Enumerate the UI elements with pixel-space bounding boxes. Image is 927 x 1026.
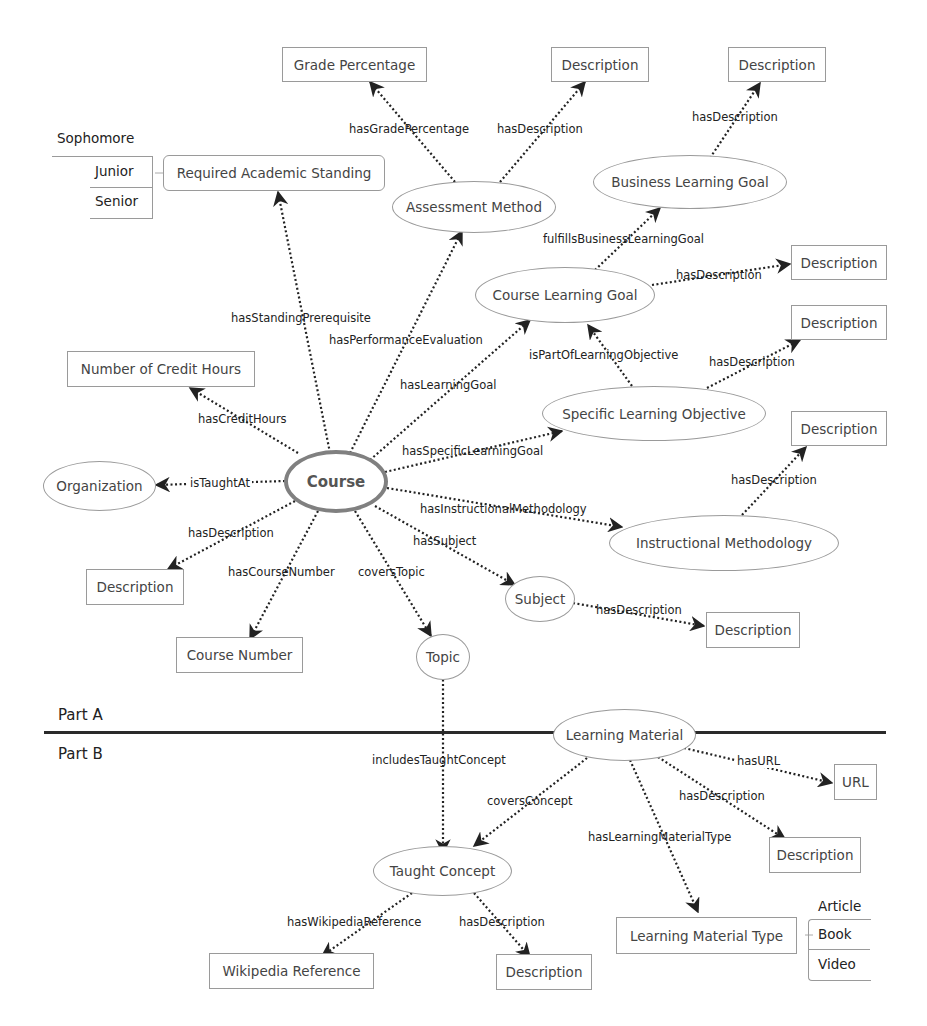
node-learning-material[interactable]: Learning Material [553,709,696,761]
edge-label-has-url: hasURL [735,756,782,768]
edge-label-includes-taught-concept: includesTaughtConcept [372,755,506,767]
edge-label-course-goal-has-description: hasDescription [676,270,762,282]
node-topic[interactable]: Topic [416,634,470,680]
standing-value-junior: Junior [95,163,134,179]
standing-separator-2 [90,187,152,188]
node-instructional-methodology[interactable]: Instructional Methodology [609,515,839,571]
edge-label-has-performance-evaluation: hasPerformanceEvaluation [329,335,483,347]
node-description-assessment[interactable]: Description [551,47,649,82]
standing-value-sophomore: Sophomore [57,130,134,146]
part-a-label: Part A [58,706,103,724]
node-taught-concept[interactable]: Taught Concept [373,846,512,896]
edge-label-has-learning-goal: hasLearningGoal [400,380,496,392]
edge-label-objective-has-description: hasDescription [709,357,795,369]
edge-label-has-specific-learning-goal: hasSpecificLearningGoal [402,446,543,458]
edge-label-course-has-description: hasDescription [188,528,274,540]
node-description-business-goal[interactable]: Description [728,47,826,82]
edge-label-material-has-description: hasDescription [679,791,765,803]
material-type-value-book: Book [818,926,852,942]
edge-label-assessment-has-description: hasDescription [497,124,583,136]
node-wikipedia-reference[interactable]: Wikipedia Reference [209,953,374,989]
edge-label-fulfills-business-learning-goal: fulfillsBusinessLearningGoal [543,234,704,246]
node-description-instructional[interactable]: Description [791,411,887,446]
part-b-label: Part B [58,745,103,763]
standing-value-senior: Senior [95,193,138,209]
edge-label-covers-concept: coversConcept [487,796,573,808]
edge-label-has-standing-prerequisite: hasStandingPrerequisite [231,313,371,325]
edge-label-has-grade-percentage: hasGradePercentage [349,124,469,136]
node-organization[interactable]: Organization [43,461,156,511]
ontology-diagram: Part A Part B Grade Percentage Descripti… [0,0,927,1026]
node-course-number[interactable]: Course Number [176,637,303,673]
edge-label-has-wikipedia-reference: hasWikipediaReference [287,917,421,929]
node-required-academic-standing[interactable]: Required Academic Standing [163,155,385,191]
node-grade-percentage[interactable]: Grade Percentage [282,47,427,82]
edge-label-has-instructional-methodology: hasInstructionalMethodology [420,504,587,516]
edge-label-is-part-of-learning-objective: isPartOfLearningObjective [529,350,678,362]
edge-label-covers-topic: coversTopic [358,567,425,579]
material-type-value-article: Article [818,898,861,914]
edge-label-has-subject: hasSubject [413,536,476,548]
node-url[interactable]: URL [834,764,877,800]
node-assessment-method[interactable]: Assessment Method [392,181,556,233]
node-specific-learning-objective[interactable]: Specific Learning Objective [542,386,766,441]
edge-label-business-goal-has-description: hasDescription [692,112,778,124]
node-description-course-goal[interactable]: Description [791,245,887,280]
node-course-learning-goal[interactable]: Course Learning Goal [475,267,655,323]
node-business-learning-goal[interactable]: Business Learning Goal [593,155,787,209]
edge-label-subject-has-description: hasDescription [596,605,682,617]
edge-label-has-course-number: hasCourseNumber [228,567,335,579]
node-description-specific-objective[interactable]: Description [791,305,887,340]
node-course[interactable]: Course [284,450,388,513]
material-type-separator [808,949,870,950]
node-learning-material-type[interactable]: Learning Material Type [616,917,797,954]
edge-label-has-credit-hours: hasCreditHours [198,414,287,426]
node-number-of-credit-hours[interactable]: Number of Credit Hours [67,351,255,387]
edge-label-has-learning-material-type: hasLearningMaterialType [588,832,731,844]
edge-label-is-taught-at: isTaughtAt [188,478,252,490]
node-subject[interactable]: Subject [505,576,575,622]
node-description-subject[interactable]: Description [706,612,800,648]
edge-label-concept-has-description: hasDescription [459,917,545,929]
node-description-learning-material[interactable]: Description [769,837,861,873]
node-description-taught-concept[interactable]: Description [496,954,592,990]
node-description-course[interactable]: Description [86,569,184,605]
section-divider [44,731,886,734]
edge-label-methodology-has-description: hasDescription [731,475,817,487]
material-type-value-video: Video [818,956,856,972]
